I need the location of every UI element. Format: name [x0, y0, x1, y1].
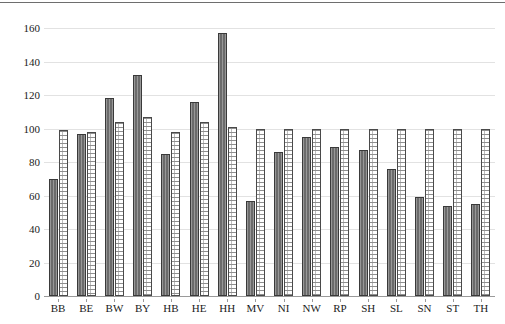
- bar-SL-series1: [387, 169, 396, 296]
- bar-BY-series1: [133, 75, 142, 296]
- bar-NI-series1: [274, 152, 283, 296]
- bar-HH-series2: [228, 127, 237, 296]
- y-tick-label-100: 100: [4, 124, 40, 135]
- bar-ST-series2: [453, 129, 462, 297]
- bar-HH-series1: [218, 33, 227, 296]
- y-tick-label-40: 40: [4, 224, 40, 235]
- bar-BW-series1: [105, 98, 114, 296]
- bar-SH-series2: [369, 129, 378, 297]
- bar-BW-series2: [115, 122, 124, 296]
- bar-SL-series2: [397, 129, 406, 297]
- bar-BB-series1: [49, 179, 58, 296]
- bar-NI-series2: [284, 129, 293, 297]
- y-tick-label-140: 140: [4, 57, 40, 68]
- bar-BE-series2: [87, 132, 96, 296]
- bar-HE-series2: [200, 122, 209, 296]
- y-tick-label-160: 160: [4, 23, 40, 34]
- bar-MV-series2: [256, 129, 265, 297]
- bar-SN-series1: [415, 197, 424, 296]
- y-tick-label-120: 120: [4, 90, 40, 101]
- bar-BE-series1: [77, 134, 86, 296]
- bar-RP-series1: [330, 147, 339, 296]
- bar-HB-series1: [161, 154, 170, 296]
- bar-NW-series2: [312, 129, 321, 297]
- bar-ST-series1: [443, 206, 452, 296]
- x-tick-label-TH: TH: [463, 303, 499, 314]
- bar-BB-series2: [59, 130, 68, 296]
- bar-SN-series2: [425, 129, 434, 297]
- bar-chart: 020406080100120140160 BBBEBWBYHBHEHHMVNI…: [0, 0, 505, 324]
- bar-TH-series1: [471, 204, 480, 296]
- bars-layer: [44, 28, 495, 296]
- y-axis-tick-labels: 020406080100120140160: [0, 0, 40, 324]
- y-tick-label-20: 20: [4, 258, 40, 269]
- bar-HE-series1: [190, 102, 199, 296]
- y-tick-label-0: 0: [4, 291, 40, 302]
- bar-TH-series2: [481, 129, 490, 297]
- bar-NW-series1: [302, 137, 311, 296]
- top-border-rule: [0, 2, 505, 3]
- x-axis-line: [44, 296, 495, 297]
- bar-SH-series1: [359, 150, 368, 296]
- bar-MV-series1: [246, 201, 255, 296]
- bar-RP-series2: [340, 129, 349, 297]
- y-tick-label-80: 80: [4, 157, 40, 168]
- bar-HB-series2: [171, 132, 180, 296]
- bar-BY-series2: [143, 117, 152, 296]
- y-tick-label-60: 60: [4, 191, 40, 202]
- x-axis-tick-labels: BBBEBWBYHBHEHHMVNINWRPSHSLSNSTTH: [44, 299, 495, 324]
